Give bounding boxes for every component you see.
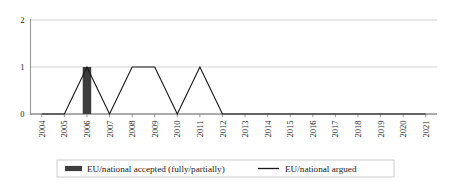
x-tick-label-2020: 2020 — [398, 121, 408, 138]
x-tick-label-2005: 2005 — [59, 121, 69, 138]
x-tick-label-2007: 2007 — [105, 121, 115, 138]
x-tick-label-2010: 2010 — [172, 121, 182, 138]
x-axis-tick-labels-group: 2004200520062007200820092010201120122013… — [37, 120, 431, 138]
y-tick-label: 1 — [20, 62, 24, 72]
x-tick-label-2021: 2021 — [421, 121, 431, 138]
y-tick-label: 0 — [20, 109, 24, 119]
x-tick-label-2004: 2004 — [37, 120, 47, 138]
gridlines-group — [31, 20, 438, 114]
legend: EU/national accepted (fully/partially)EU… — [57, 160, 394, 177]
x-tick-label-2014: 2014 — [263, 120, 273, 138]
x-tick-label-2016: 2016 — [308, 121, 318, 138]
line-series-group — [42, 67, 426, 114]
x-tick-label-2008: 2008 — [127, 121, 137, 138]
legend-label-eu-national-argued: EU/national argued — [285, 164, 357, 174]
legend-bar-swatch-icon — [65, 166, 82, 171]
x-tick-label-2017: 2017 — [330, 121, 340, 138]
x-tick-label-2012: 2012 — [218, 121, 228, 138]
x-tick-label-2013: 2013 — [240, 121, 250, 138]
x-tick-label-2015: 2015 — [285, 121, 295, 138]
x-tick-label-2009: 2009 — [150, 121, 160, 138]
chart-container: 012 200420052006200720082009201020112012… — [0, 0, 450, 186]
legend-label-eu-national-accepted: EU/national accepted (fully/partially) — [87, 164, 225, 174]
y-axis-tick-labels-group: 012 — [20, 15, 24, 119]
x-tick-label-2018: 2018 — [353, 121, 363, 138]
x-tick-label-2006: 2006 — [82, 121, 92, 138]
line-series-eu-national-argued — [42, 67, 426, 114]
x-tick-label-2011: 2011 — [195, 121, 205, 138]
y-tick-label: 2 — [20, 15, 24, 25]
chart-svg: 012 200420052006200720082009201020112012… — [0, 0, 450, 186]
x-tick-label-2019: 2019 — [376, 121, 386, 138]
